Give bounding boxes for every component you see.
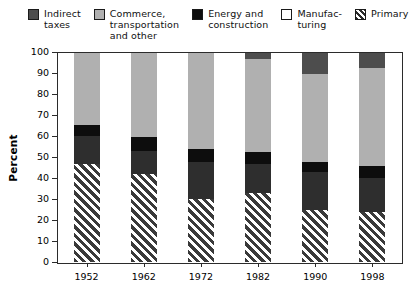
- manufacturing-swatch-icon: [281, 9, 292, 20]
- segment-primary: [74, 164, 100, 262]
- segment-primary: [188, 199, 214, 262]
- indirect-swatch-icon: [28, 9, 39, 20]
- x-tick-label: 1998: [349, 271, 395, 282]
- segment-manufacturing: [131, 151, 157, 174]
- segment-primary: [302, 210, 328, 262]
- legend-item-primary: Primary: [355, 8, 408, 20]
- legend-label: Manufac- turing: [297, 8, 342, 30]
- bar-1972: [188, 53, 214, 262]
- bars-container: [58, 53, 401, 262]
- segment-commerce: [245, 59, 271, 152]
- legend-label: Commerce, transportation and other: [110, 8, 179, 41]
- y-tick-label: 40: [9, 173, 49, 183]
- x-tick-mark: [258, 263, 259, 267]
- x-tick-label: 1962: [121, 271, 167, 282]
- y-tick-label: 90: [9, 68, 49, 78]
- y-tick-label: 80: [9, 89, 49, 99]
- segment-commerce: [131, 53, 157, 137]
- segment-manufacturing: [302, 172, 328, 210]
- segment-commerce: [359, 68, 385, 166]
- legend-item-commerce: Commerce, transportation and other: [94, 8, 179, 41]
- y-tick-label: 30: [9, 194, 49, 204]
- segment-manufacturing: [188, 162, 214, 200]
- segment-energy-construction: [245, 152, 271, 164]
- x-tick-label: 1952: [64, 271, 110, 282]
- bar-1998: [359, 53, 385, 262]
- x-tick-mark: [372, 263, 373, 267]
- segment-manufacturing: [245, 164, 271, 193]
- x-axis: 195219621972198219901998: [58, 263, 401, 289]
- x-tick-mark: [144, 263, 145, 267]
- legend-item-indirect: Indirect taxes: [28, 8, 81, 30]
- segment-energy-construction: [359, 166, 385, 179]
- segment-primary: [131, 174, 157, 262]
- bar-1952: [74, 53, 100, 262]
- segment-primary: [245, 193, 271, 262]
- bar-1962: [131, 53, 157, 262]
- segment-indirect-taxes: [302, 53, 328, 74]
- segment-energy-construction: [131, 137, 157, 152]
- x-tick-mark: [87, 263, 88, 267]
- segment-commerce: [302, 74, 328, 162]
- y-axis: Percent 0102030405060708090100: [0, 40, 57, 280]
- chart-legend: Indirect taxesCommerce, transportation a…: [28, 8, 413, 52]
- segment-commerce: [188, 53, 214, 149]
- segment-energy-construction: [302, 162, 328, 172]
- x-tick-mark: [315, 263, 316, 267]
- bar-1982: [245, 53, 271, 262]
- legend-label: Indirect taxes: [44, 8, 81, 30]
- legend-label: Energy and construction: [208, 8, 268, 30]
- x-tick-mark: [201, 263, 202, 267]
- primary-swatch-icon: [355, 9, 366, 20]
- y-tick-label: 100: [9, 47, 49, 57]
- legend-item-energy: Energy and construction: [192, 8, 268, 30]
- segment-energy-construction: [188, 149, 214, 162]
- commerce-swatch-icon: [94, 9, 105, 20]
- segment-energy-construction: [74, 125, 100, 135]
- legend-label: Primary: [371, 8, 408, 19]
- segment-primary: [359, 212, 385, 262]
- legend-item-manufacturing: Manufac- turing: [281, 8, 342, 30]
- segment-indirect-taxes: [359, 53, 385, 68]
- segment-commerce: [74, 53, 100, 125]
- y-tick-label: 20: [9, 215, 49, 225]
- segment-manufacturing: [74, 136, 100, 164]
- y-tick-label: 60: [9, 131, 49, 141]
- y-tick-label: 10: [9, 236, 49, 246]
- bar-1990: [302, 53, 328, 262]
- y-tick-label: 70: [9, 110, 49, 120]
- energy-swatch-icon: [192, 9, 203, 20]
- y-tick-label: 50: [9, 152, 49, 162]
- y-tick-label: 0: [9, 257, 49, 267]
- x-tick-label: 1990: [292, 271, 338, 282]
- x-tick-label: 1972: [178, 271, 224, 282]
- x-tick-label: 1982: [235, 271, 281, 282]
- stacked-bar-chart: Indirect taxesCommerce, transportation a…: [0, 0, 417, 292]
- segment-manufacturing: [359, 178, 385, 211]
